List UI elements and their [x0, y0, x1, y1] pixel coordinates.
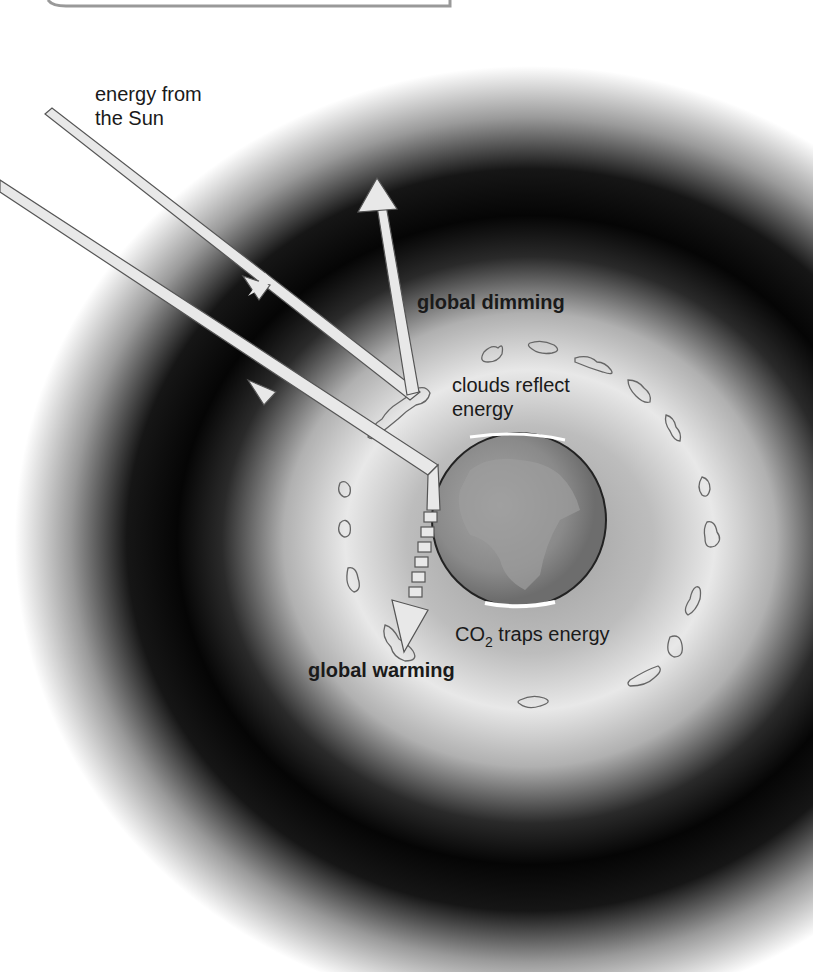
top-panel-border	[48, 0, 450, 6]
label-energy-from-sun: energy from the Sun	[95, 82, 202, 130]
label-global-warming: global warming	[308, 658, 455, 682]
atmosphere-rings	[0, 60, 813, 972]
label-co2-traps-energy: CO2 traps energy	[455, 622, 610, 648]
label-global-dimming: global dimming	[417, 290, 565, 314]
label-clouds-reflect-energy: clouds reflect energy	[452, 373, 570, 421]
diagram-canvas	[0, 0, 813, 972]
earth	[432, 433, 606, 607]
